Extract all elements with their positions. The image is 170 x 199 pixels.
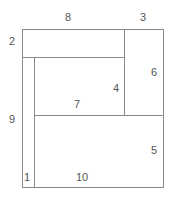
label-2: 2 xyxy=(9,36,15,47)
label-8: 8 xyxy=(65,12,71,23)
label-7: 7 xyxy=(74,99,80,110)
label-9: 9 xyxy=(9,114,15,125)
label-4: 4 xyxy=(113,83,119,94)
label-6: 6 xyxy=(151,67,157,78)
outer-rectangle xyxy=(23,30,164,188)
label-10: 10 xyxy=(76,172,88,183)
label-1: 1 xyxy=(24,172,30,183)
partition-diagram xyxy=(0,0,170,199)
label-3: 3 xyxy=(140,12,146,23)
label-5: 5 xyxy=(151,145,157,156)
